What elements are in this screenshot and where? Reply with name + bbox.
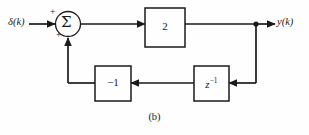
- summing-junction-input-sign: +: [50, 8, 55, 18]
- feedback-gain-block-label: −1: [95, 77, 131, 88]
- gain-block-label: 2: [145, 21, 185, 32]
- unit-delay-block-label: z−1: [194, 77, 229, 90]
- input-signal-label: δ(k): [8, 17, 25, 28]
- summing-junction-feedback-sign: +: [56, 31, 61, 41]
- figure-caption: (b): [0, 112, 309, 123]
- figure-block-diagram: δ(k) + + Σ 2 −1 z−1 y(k) (b): [0, 0, 309, 135]
- output-signal-label: y(k): [277, 17, 293, 28]
- delay-exponent: −1: [210, 76, 218, 85]
- summation-sigma-symbol: Σ: [61, 15, 72, 30]
